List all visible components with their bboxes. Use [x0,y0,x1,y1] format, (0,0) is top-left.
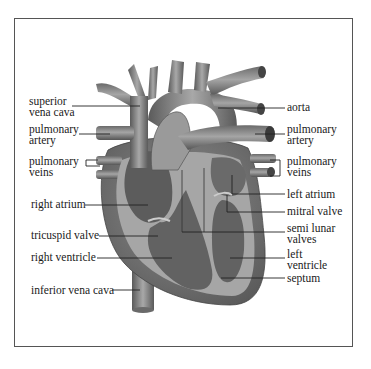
label-line: ventricle [287,260,327,271]
label-pulmonary-artery-left: pulmonary artery [29,124,79,146]
label-superior-vena-cava: superior vena cava [29,96,75,118]
label-line: veins [29,167,79,178]
label-line: artery [29,135,79,146]
label-line: vena cava [29,107,75,118]
label-line: valves [287,234,335,245]
label-left-ventricle: left ventricle [287,249,327,271]
label-pulmonary-veins-left: pulmonary veins [29,156,79,178]
label-right-atrium: right atrium [31,199,86,210]
label-right-ventricle: right ventricle [31,252,96,263]
label-mitral-valve: mitral valve [287,206,342,217]
label-pulmonary-artery-right: pulmonary artery [287,124,337,146]
label-septum: septum [287,273,320,284]
label-tricuspid-valve: tricuspid valve [31,230,99,241]
pulmonary-artery-left-vessel [96,126,134,140]
label-aorta: aorta [287,102,310,113]
label-left-atrium: left atrium [287,189,335,200]
heart-illustration [0,0,371,369]
label-pulmonary-veins-right: pulmonary veins [287,156,337,178]
label-semi-lunar-valves: semi lunar valves [287,223,335,245]
label-line: veins [287,167,337,178]
label-inferior-vena-cava: inferior vena cava [31,285,114,296]
label-line: artery [287,135,337,146]
